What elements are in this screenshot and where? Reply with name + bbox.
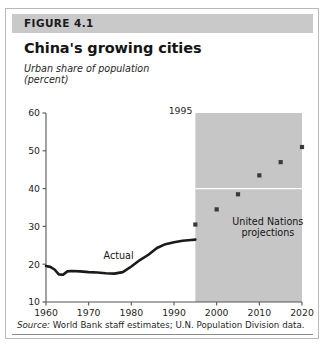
x-tick-label: 1980	[119, 307, 143, 318]
x-tick-label: 1960	[34, 307, 58, 318]
projection-marker	[236, 192, 240, 196]
projection-label-line: United Nations	[232, 216, 303, 227]
projection-label: United Nationsprojections	[232, 216, 303, 238]
projection-label-line: projections	[241, 227, 294, 238]
x-tick-label: 2010	[247, 307, 271, 318]
y-tick-label: 30	[28, 221, 40, 232]
projection-marker	[215, 207, 219, 211]
projection-start-label: 1995	[169, 105, 193, 116]
projection-marker	[300, 145, 304, 149]
projection-marker	[193, 222, 197, 226]
x-tick-label: 2000	[205, 307, 229, 318]
chart-plot-area: 1020304050601960197019801990200020102020…	[6, 9, 320, 340]
source-divider	[12, 334, 313, 335]
x-tick-label: 2020	[290, 307, 314, 318]
projection-shaded-region	[195, 113, 302, 302]
actual-label: Actual	[104, 250, 134, 261]
x-tick-label: 1970	[77, 307, 101, 318]
source-prefix: Source:	[17, 320, 50, 330]
y-tick-label: 40	[28, 183, 40, 194]
source-text: World Bank staff estimates; U.N. Populat…	[50, 320, 305, 330]
y-tick-label: 60	[28, 107, 40, 118]
source-note: Source: World Bank staff estimates; U.N.…	[17, 320, 312, 330]
y-tick-label: 10	[28, 296, 40, 307]
y-tick-label: 20	[28, 259, 40, 270]
x-tick-label: 1990	[162, 307, 186, 318]
figure-card: FIGURE 4.1 China's growing cities Urban …	[5, 8, 319, 339]
projection-marker	[279, 160, 283, 164]
chart-svg: 1020304050601960197019801990200020102020…	[6, 9, 320, 340]
y-tick-label: 50	[28, 145, 40, 156]
projection-marker	[257, 173, 261, 177]
